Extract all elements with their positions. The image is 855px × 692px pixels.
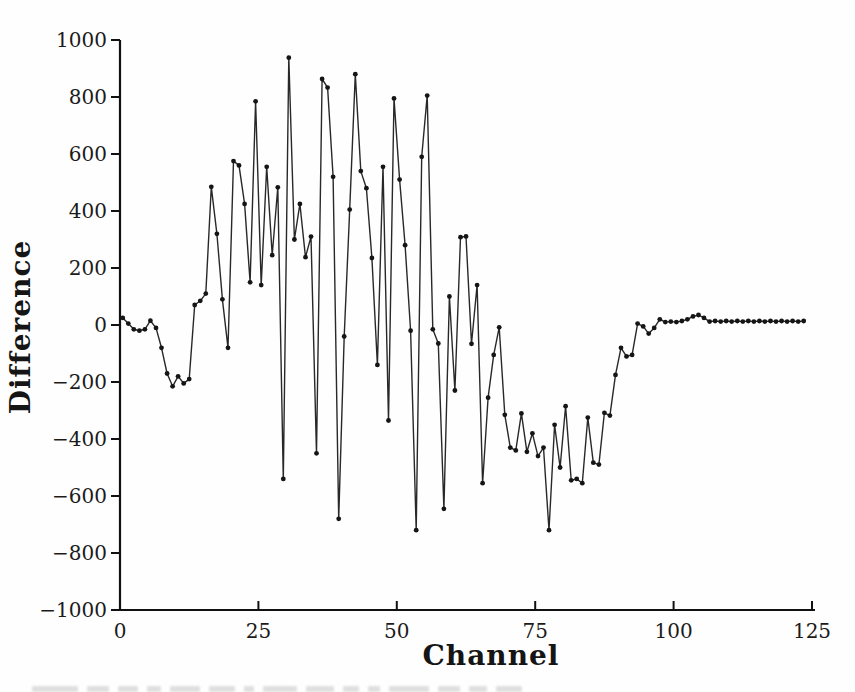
data-point-marker [181, 381, 186, 386]
data-point-marker [176, 374, 181, 379]
x-axis-title: Channel [423, 639, 560, 672]
data-point-marker [652, 326, 657, 331]
data-point-marker [752, 319, 757, 324]
data-point-marker [486, 395, 491, 400]
data-point-marker [453, 388, 458, 393]
data-point-marker [397, 177, 402, 182]
data-point-marker [198, 298, 203, 303]
data-point-marker [215, 231, 220, 236]
data-point-marker [585, 415, 590, 420]
y-tick-label: −600 [52, 484, 107, 508]
data-point-marker [392, 96, 397, 101]
data-point-marker [674, 320, 679, 325]
data-point-marker [552, 422, 557, 427]
data-point-marker [442, 506, 447, 511]
data-point-marker [192, 303, 197, 308]
data-point-marker [746, 319, 751, 324]
data-point-marker [541, 445, 546, 450]
data-point-marker [480, 481, 485, 486]
data-point-marker [386, 418, 391, 423]
data-point-marker [353, 72, 358, 77]
y-tick-label: −800 [52, 541, 107, 565]
data-point-marker [336, 516, 341, 521]
data-point-marker [154, 326, 159, 331]
data-point-marker [370, 256, 375, 261]
axes [120, 40, 815, 610]
data-point-marker [580, 481, 585, 486]
data-point-marker [414, 528, 419, 533]
data-point-marker [574, 477, 579, 482]
data-series [120, 55, 806, 532]
data-point-marker [419, 154, 424, 159]
x-tick-label: 0 [114, 619, 127, 643]
data-point-marker [425, 93, 430, 98]
difference-line [123, 58, 804, 531]
data-point-marker [270, 253, 275, 258]
data-point-marker [159, 345, 164, 350]
data-point-marker [403, 243, 408, 248]
data-point-marker [325, 85, 330, 90]
data-point-marker [619, 345, 624, 350]
data-point-marker [408, 328, 413, 333]
data-point-marker [696, 313, 701, 318]
data-point-marker [547, 528, 552, 533]
data-point-marker [248, 280, 253, 285]
data-point-marker [220, 297, 225, 302]
y-tick-label: −200 [52, 370, 107, 394]
x-tick-label: 25 [246, 619, 271, 643]
data-point-marker [364, 186, 369, 191]
data-point-marker [768, 319, 773, 324]
data-point-marker [801, 319, 806, 324]
data-point-marker [597, 462, 602, 467]
x-tick-label: 125 [793, 619, 831, 643]
x-tick-label: 100 [655, 619, 693, 643]
data-point-marker [464, 234, 469, 239]
data-point-marker [602, 410, 607, 415]
data-point-marker [774, 319, 779, 324]
data-point-marker [430, 327, 435, 332]
data-point-marker [436, 341, 441, 346]
data-point-marker [657, 317, 662, 322]
data-point-marker [702, 316, 707, 321]
data-point-marker [231, 159, 236, 164]
data-point-marker [691, 314, 696, 319]
data-point-marker [513, 448, 518, 453]
data-point-marker [707, 319, 712, 324]
axis-lines [120, 40, 815, 610]
data-point-marker [729, 319, 734, 324]
data-point-marker [569, 478, 574, 483]
y-tick-label: 800 [69, 85, 107, 109]
data-point-marker [309, 234, 314, 239]
data-point-marker [203, 291, 208, 296]
data-point-marker [131, 327, 136, 332]
difference-vs-channel-chart: −1000−800−600−400−2000200400600800100002… [0, 0, 855, 692]
y-tick-label: 1000 [56, 28, 107, 52]
data-point-marker [358, 169, 363, 174]
data-point-marker [170, 384, 175, 389]
data-point-marker [718, 319, 723, 324]
data-point-marker [630, 353, 635, 358]
x-tick-label: 50 [384, 619, 409, 643]
y-tick-label: 400 [69, 199, 107, 223]
scanned-figure-page: −1000−800−600−400−2000200400600800100002… [0, 0, 855, 692]
data-point-marker [447, 294, 452, 299]
data-point-marker [724, 319, 729, 324]
data-point-marker [331, 174, 336, 179]
data-point-marker [314, 451, 319, 456]
y-tick-label: 600 [69, 142, 107, 166]
data-point-marker [613, 373, 618, 378]
data-point-marker [502, 412, 507, 417]
data-point-marker [275, 185, 280, 190]
data-point-marker [563, 404, 568, 409]
data-point-marker [320, 77, 325, 82]
data-point-marker [735, 319, 740, 324]
axis-ticks [111, 40, 812, 611]
data-point-marker [785, 319, 790, 324]
data-point-marker [281, 477, 286, 482]
data-point-marker [608, 413, 613, 418]
data-point-marker [740, 319, 745, 324]
data-point-marker [120, 316, 125, 321]
data-point-marker [165, 371, 170, 376]
data-point-marker [525, 449, 530, 454]
data-point-marker [475, 283, 480, 288]
